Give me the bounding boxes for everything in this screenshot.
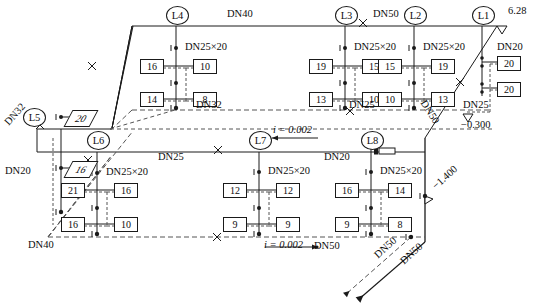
- fixture-box: 10: [378, 92, 402, 107]
- fixture-box: 19: [309, 59, 333, 74]
- pipe-label-dn25-mid: DN25: [349, 99, 375, 110]
- pipe-label-dn20-right: DN20: [497, 41, 523, 52]
- slope-label-lower: i = 0.002: [264, 239, 303, 250]
- fixture-box: 19: [431, 59, 455, 74]
- pipe-label-dn40-top: DN40: [227, 8, 253, 19]
- riser-label-L8[interactable]: L8: [361, 131, 384, 150]
- fixture-box: 8: [388, 217, 412, 232]
- fixture-box: 12: [223, 183, 247, 198]
- valve-x-icon: [456, 78, 464, 86]
- elevation-label-minus0300: −0.300: [461, 119, 491, 130]
- valve-x-icon: [214, 146, 222, 154]
- fixture-box: 13: [309, 92, 333, 107]
- branch-label-dn25x20: DN25×20: [268, 165, 310, 176]
- fixture-box: 16: [114, 183, 138, 198]
- branch-label-dn25x20: DN25×20: [185, 41, 227, 52]
- fixture-box: 12: [276, 183, 300, 198]
- riser-label-L1[interactable]: L1: [472, 6, 495, 25]
- slope-arrow-upper: [272, 136, 318, 141]
- riser-label-L7[interactable]: L7: [249, 131, 272, 150]
- fixture-box: 20: [497, 56, 521, 71]
- fixture-box: 9: [276, 217, 300, 232]
- fixture-box: 10: [114, 217, 138, 232]
- fixture-box: 10: [193, 59, 217, 74]
- fixture-box: 14: [388, 183, 412, 198]
- fixture-box: 9: [335, 217, 359, 232]
- pipe-label-dn40-bottom: DN40: [28, 239, 54, 250]
- riser-label-L3[interactable]: L3: [335, 6, 358, 25]
- fixture-box: 16: [335, 183, 359, 198]
- branch-label-dn25x20: DN25×20: [423, 41, 465, 52]
- riser-label-L6[interactable]: L6: [87, 131, 110, 150]
- pipe-label-dn32-mid: DN32: [196, 99, 222, 110]
- drawing-canvas: L1 L2 L3 L4 L5 L6 L7 L8 16 10 14 8 19 15…: [0, 0, 536, 308]
- elevation-marker-628: [497, 26, 507, 34]
- riser-label-L2[interactable]: L2: [404, 6, 427, 25]
- branch-label-dn25x20: DN25×20: [354, 41, 396, 52]
- fixture-box: 16: [61, 217, 85, 232]
- fixture-box: 16: [140, 59, 164, 74]
- valve-x-markers: [36, 19, 464, 241]
- pipe-label-dn50-top: DN50: [373, 8, 399, 19]
- pipe-label-dn20-left: DN20: [5, 165, 31, 176]
- pipe-label-dn20-lower: DN20: [324, 151, 350, 162]
- riser-label-L4[interactable]: L4: [166, 6, 189, 25]
- fixture-box: 20: [497, 82, 521, 97]
- fixture-box: 9: [223, 217, 247, 232]
- pipe-label-dn25-lower: DN25: [158, 151, 184, 162]
- fixture-box: 21: [61, 183, 85, 198]
- fixture-box: 13: [431, 92, 455, 107]
- slope-label-upper: i = 0.002: [273, 124, 312, 135]
- fixture-box: 15: [378, 59, 402, 74]
- branch-label-dn25x20: DN25×20: [380, 165, 422, 176]
- pipe-label-dn50-bottom: DN50: [314, 240, 340, 251]
- fixture-box: 14: [140, 92, 164, 107]
- elevation-label-628: 6.28: [508, 5, 526, 16]
- pipe-label-dn25-right: DN25: [463, 99, 489, 110]
- valve-x-icon: [88, 62, 96, 70]
- branch-label-dn25x20: DN25×20: [106, 166, 148, 177]
- riser-label-L5[interactable]: L5: [23, 108, 46, 127]
